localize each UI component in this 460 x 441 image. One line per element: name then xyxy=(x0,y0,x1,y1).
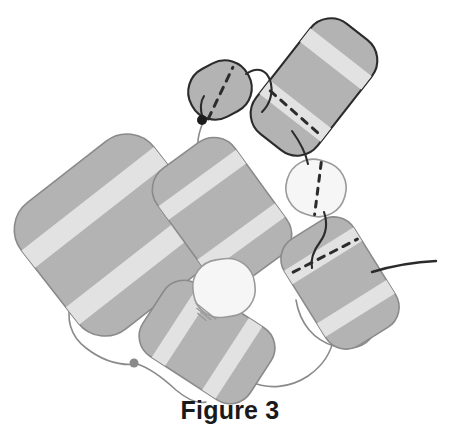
upper-terminal-dot[interactable] xyxy=(197,115,207,125)
schematic-diagram xyxy=(0,0,460,441)
figure-caption: Figure 3 xyxy=(0,396,460,425)
lower-terminal-dot[interactable] xyxy=(130,359,139,368)
figure-container: Figure 3 xyxy=(0,0,460,441)
